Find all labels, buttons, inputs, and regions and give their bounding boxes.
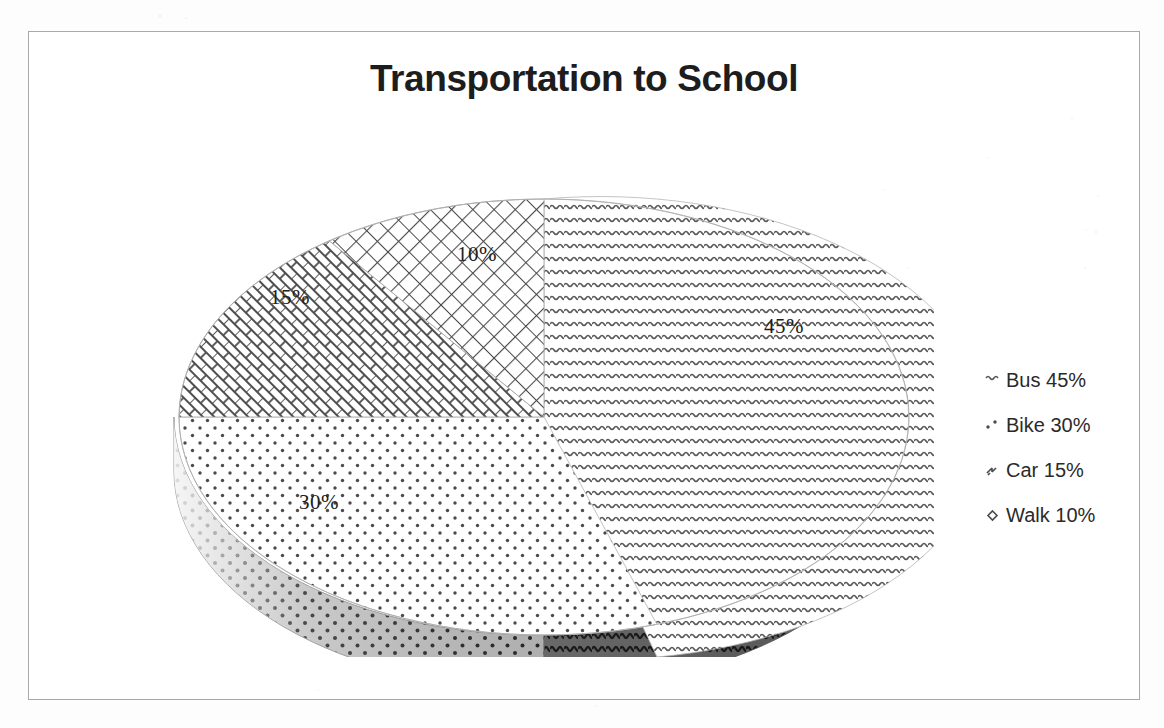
pie-top-face: [179, 199, 909, 635]
legend-item-bike[interactable]: Bike 30%: [984, 403, 1164, 448]
slice-label-bus: 45%: [764, 314, 804, 339]
pattern-swatch-dots-icon: [984, 417, 1001, 434]
slice-label-bike: 30%: [299, 490, 339, 515]
legend-label-walk: Walk 10%: [1006, 504, 1095, 527]
pattern-swatch-brick-icon: [984, 462, 1001, 479]
legend-item-walk[interactable]: Walk 10%: [984, 493, 1164, 538]
legend-label-bike: Bike 30%: [1006, 414, 1091, 437]
pie-chart-3d: [144, 177, 934, 657]
slice-label-car: 15%: [270, 285, 310, 310]
legend-label-car: Car 15%: [1006, 459, 1084, 482]
chart-title: Transportation to School: [29, 58, 1139, 100]
scanned-page: Transportation to School: [0, 0, 1164, 728]
legend-label-bus: Bus 45%: [1006, 369, 1086, 392]
legend-item-car[interactable]: Car 15%: [984, 448, 1164, 493]
slice-label-walk: 10%: [457, 242, 497, 267]
legend-item-bus[interactable]: Bus 45%: [984, 358, 1164, 403]
pattern-swatch-horizontal-dash-icon: [984, 372, 1001, 389]
chart-frame: Transportation to School: [28, 31, 1140, 700]
pattern-swatch-diamond-icon: [984, 507, 1001, 524]
chart-legend: Bus 45% Bike 30% Car 15%: [984, 358, 1164, 538]
